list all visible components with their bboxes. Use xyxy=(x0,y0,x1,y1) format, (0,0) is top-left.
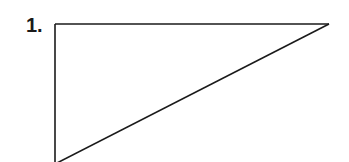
right-triangle-figure xyxy=(0,0,349,162)
triangle-hypotenuse xyxy=(55,24,329,162)
